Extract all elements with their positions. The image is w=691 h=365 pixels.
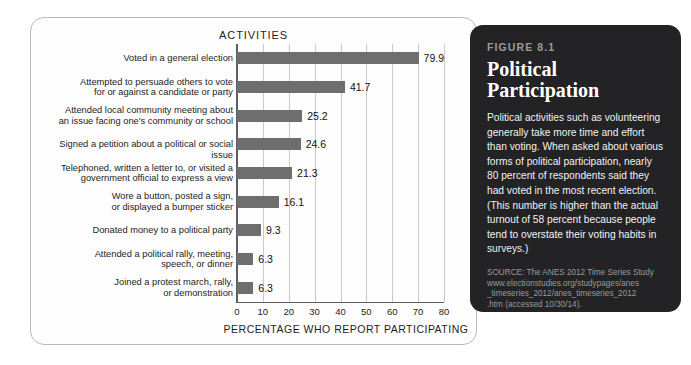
bar [237,138,301,150]
category-label: Attended local community meeting about a… [37,105,233,126]
bar-row: 24.6 [237,137,444,151]
category-label: Voted in a general election [37,53,233,64]
bar-value-label: 21.3 [297,167,317,179]
category-label: Telephoned, written a letter to, or visi… [37,163,233,184]
x-tick-label: 60 [387,306,398,317]
figure-number: FIGURE 8.1 [487,41,664,53]
x-tick-label: 20 [283,306,294,317]
category-label: Signed a petition about a political or s… [37,139,233,160]
bar-value-label: 79.9 [424,52,444,64]
x-tick-label: 30 [309,306,320,317]
figure-title: Political Participation [487,59,664,101]
category-label: Donated money to a political party [37,225,233,236]
category-label: Wore a button, posted a sign, or display… [37,191,233,212]
figure-source-note: SOURCE: The ANES 2012 Time Series Study … [487,268,664,310]
bar [237,224,261,236]
x-tick-label: 70 [413,306,424,317]
x-axis-title: PERCENTAGE WHO REPORT PARTICIPATING [201,323,491,335]
bar-value-label: 25.2 [307,110,327,122]
bar [237,110,302,122]
bar-value-label: 6.3 [258,282,273,294]
bar-row: 6.3 [237,252,444,266]
x-tick-label: 40 [335,306,346,317]
chart-title: ACTIVITIES [31,29,476,41]
category-label: Joined a protest march, rally, or demons… [37,277,233,298]
x-tick-label: 50 [361,306,372,317]
bar-row: 9.3 [237,223,444,237]
figure-caption-body: Political activities such as volunteerin… [487,111,664,257]
x-axis-tick-label-group: 01020304050607080 [237,306,444,320]
bar-value-label: 24.6 [306,138,326,150]
gridline [444,44,445,302]
bar-row: 21.3 [237,166,444,180]
bar [237,196,279,208]
x-tick-label: 0 [234,306,239,317]
bar [237,253,253,265]
bar [237,52,419,64]
figure-caption-panel: FIGURE 8.1 Political Participation Polit… [470,25,681,312]
bar-value-label: 41.7 [350,81,370,93]
x-tick-label: 10 [258,306,269,317]
x-tick-label: 80 [439,306,450,317]
category-label: Attempted to persuade others to vote for… [37,77,233,98]
bar-row: 79.9 [237,51,444,65]
bar-row: 25.2 [237,109,444,123]
category-label: Attended a political rally, meeting, spe… [37,249,233,270]
bar-row: 41.7 [237,80,444,94]
bar-value-label: 6.3 [258,253,273,265]
x-axis-line [236,302,444,304]
bar-row: 6.3 [237,281,444,295]
bar [237,81,345,93]
bar [237,167,292,179]
chart-card: ACTIVITIES Voted in a general electionAt… [30,17,477,345]
category-label-group: Voted in a general electionAttempted to … [35,44,233,302]
bar-value-label: 16.1 [284,196,304,208]
bar [237,282,253,294]
bar-chart-plot-area: 79.941.725.224.621.316.19.36.36.3 [237,44,444,302]
bar-row: 16.1 [237,195,444,209]
bar-value-label: 9.3 [266,224,281,236]
